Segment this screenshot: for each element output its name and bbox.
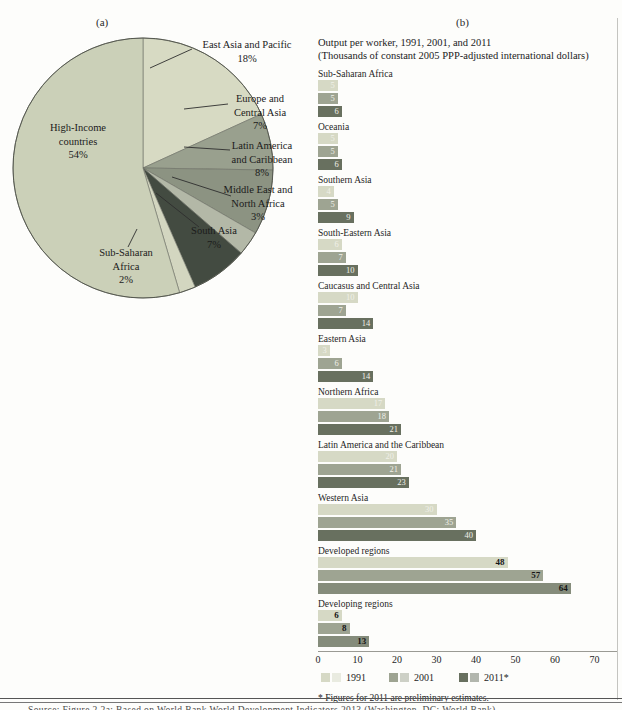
legend-swatch	[332, 673, 341, 682]
bar-1991-2: 4	[318, 186, 334, 197]
bar-row: 8	[318, 623, 620, 636]
bar-row: 5	[318, 146, 620, 159]
pie-pct-1: 7%	[205, 119, 315, 133]
pie-pct-4: 7%	[164, 238, 264, 252]
bar-value: 40	[318, 530, 476, 541]
x-tick-20: 20	[392, 654, 402, 665]
bar-2001-2: 5	[318, 199, 338, 210]
bar-value: 5	[318, 93, 338, 104]
legend-item-2001: 2001	[389, 672, 434, 684]
legend-swatch	[321, 673, 330, 682]
bar-2001-3: 7	[318, 252, 346, 263]
bar-1991-5: 3	[318, 345, 330, 356]
bar-2011-1: 6	[318, 159, 342, 170]
bar-row: 3	[318, 345, 620, 358]
bar-row: 9	[318, 212, 620, 225]
bar-group-label: Latin America and the Caribbean	[318, 439, 620, 451]
bar-group-label: Developing regions	[318, 598, 620, 610]
bar-value: 48	[318, 557, 508, 568]
pie-pct-0: 18%	[177, 52, 317, 66]
legend-swatch	[389, 673, 398, 682]
x-tick-10: 10	[353, 654, 363, 665]
bar-2011-2: 9	[318, 212, 354, 223]
bar-row: 30	[318, 504, 620, 517]
bar-row: 5	[318, 199, 620, 212]
x-tick-0: 0	[316, 654, 321, 665]
bar-row: 23	[318, 477, 620, 490]
bar-row: 21	[318, 424, 620, 437]
bar-row: 14	[318, 371, 620, 384]
bar-group-0: Sub-Saharan Africa556	[318, 68, 620, 121]
bar-row: 4	[318, 186, 620, 199]
bar-row: 5	[318, 93, 620, 106]
bar-group-10: Developing regions6813	[318, 598, 620, 651]
bar-value: 10	[318, 265, 358, 276]
bar-group-9: Developed regions485764	[318, 545, 620, 598]
bar-1991-1: 5	[318, 133, 338, 144]
bar-1991-7: 20	[318, 451, 397, 462]
pie-label-3: Middle East andNorth Africa3%	[198, 183, 318, 224]
bar-group-2: Southern Asia459	[318, 174, 620, 227]
bar-group-label: Northern Africa	[318, 386, 620, 398]
bar-group-label: Southern Asia	[318, 174, 620, 186]
bar-row: 6	[318, 106, 620, 119]
bar-value: 7	[318, 305, 346, 316]
source-line-clipped: Source: Figure 2.2a: Based on World Bank…	[0, 702, 622, 710]
bar-row: 10	[318, 265, 620, 278]
pie-label-0: East Asia and Pacific18%	[177, 38, 317, 65]
bar-value: 20	[318, 451, 397, 462]
pie-pct-6: 54%	[28, 148, 128, 162]
bar-value: 21	[318, 464, 401, 475]
page-edge-line	[617, 18, 618, 700]
bar-value: 10	[318, 292, 358, 303]
bar-row: 5	[318, 133, 620, 146]
bar-value: 18	[318, 411, 389, 422]
legend-swatch	[470, 673, 479, 682]
pie-pct-3: 3%	[198, 210, 318, 224]
bar-value: 14	[318, 318, 373, 329]
bar-value: 30	[318, 504, 437, 515]
legend-item-1991: 1991	[321, 672, 366, 684]
bar-groups: Sub-Saharan Africa556Oceania556Southern …	[318, 68, 620, 651]
bar-value: 14	[318, 371, 373, 382]
bar-value: 5	[318, 146, 338, 157]
bar-value: 6	[318, 159, 342, 170]
bar-group-label: Caucasus and Central Asia	[318, 280, 620, 292]
bar-group-4: Caucasus and Central Asia10714	[318, 280, 620, 333]
x-tick-70: 70	[590, 654, 600, 665]
bar-1991-9: 48	[318, 557, 508, 568]
bar-value: 6	[318, 239, 342, 250]
legend-label: 1991	[346, 672, 366, 683]
bar-value: 4	[318, 186, 334, 197]
bar-value: 5	[318, 199, 338, 210]
x-axis-ticks: 010203040506070	[318, 654, 620, 667]
x-axis-line	[318, 651, 618, 652]
x-tick-50: 50	[511, 654, 521, 665]
bar-2001-7: 21	[318, 464, 401, 475]
x-tick-60: 60	[550, 654, 560, 665]
bar-1991-8: 30	[318, 504, 437, 515]
bar-group-1: Oceania556	[318, 121, 620, 174]
bar-2011-5: 14	[318, 371, 373, 382]
legend-label: 2011*	[484, 672, 509, 683]
bar-row: 35	[318, 517, 620, 530]
bar-chart-panel: Output per worker, 1991, 2001, and 2011 …	[318, 36, 620, 703]
bar-2001-10: 8	[318, 623, 350, 634]
legend-swatch	[459, 673, 468, 682]
bar-2011-3: 10	[318, 265, 358, 276]
legend-item-2011: 2011*	[459, 672, 509, 684]
bar-row: 5	[318, 80, 620, 93]
bar-1991-3: 6	[318, 239, 342, 250]
bar-group-label: Sub-Saharan Africa	[318, 68, 620, 80]
bar-row: 40	[318, 530, 620, 543]
pie-label-5: Sub-SaharanAfrica2%	[76, 246, 176, 287]
bar-value: 13	[318, 636, 369, 647]
bar-group-5: Eastern Asia3614	[318, 333, 620, 386]
bar-row: 13	[318, 636, 620, 649]
pie-label-6: High-Incomecountries54%	[28, 121, 128, 162]
bar-group-label: Eastern Asia	[318, 333, 620, 345]
bar-value: 57	[318, 570, 543, 581]
figure: (a) (b) East Asia and Pacific18%Europe a…	[0, 0, 622, 710]
bar-1991-0: 5	[318, 80, 338, 91]
bar-2001-9: 57	[318, 570, 543, 581]
